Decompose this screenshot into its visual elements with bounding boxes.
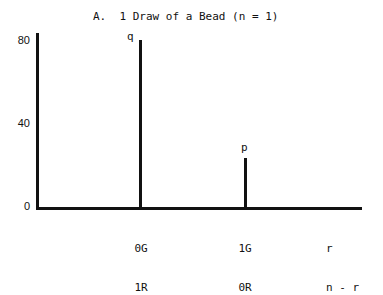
x-tick-1g-0r: 1G 0R	[232, 216, 258, 295]
y-tick-80: 80	[0, 34, 30, 46]
bar-label-p: p	[241, 141, 248, 154]
bar-q	[139, 40, 142, 209]
x-end-line1: r	[326, 242, 359, 255]
chart-title: A. 1 Draw of a Bead (n = 1)	[93, 10, 278, 23]
bar-p	[244, 158, 247, 209]
x-tick-line2: 0R	[232, 281, 258, 294]
x-tick-line1: 0G	[128, 242, 154, 255]
x-axis	[36, 207, 362, 210]
y-tick-0: 0	[0, 200, 30, 212]
x-axis-end-label: r n - r	[326, 216, 359, 295]
x-tick-line1: 1G	[232, 242, 258, 255]
x-tick-0g-1r: 0G 1R	[128, 216, 154, 295]
bar-label-q: q	[127, 30, 134, 43]
x-tick-line2: 1R	[128, 281, 154, 294]
y-axis	[36, 33, 39, 210]
x-end-line2: n - r	[326, 281, 359, 294]
y-tick-40: 40	[0, 117, 30, 129]
